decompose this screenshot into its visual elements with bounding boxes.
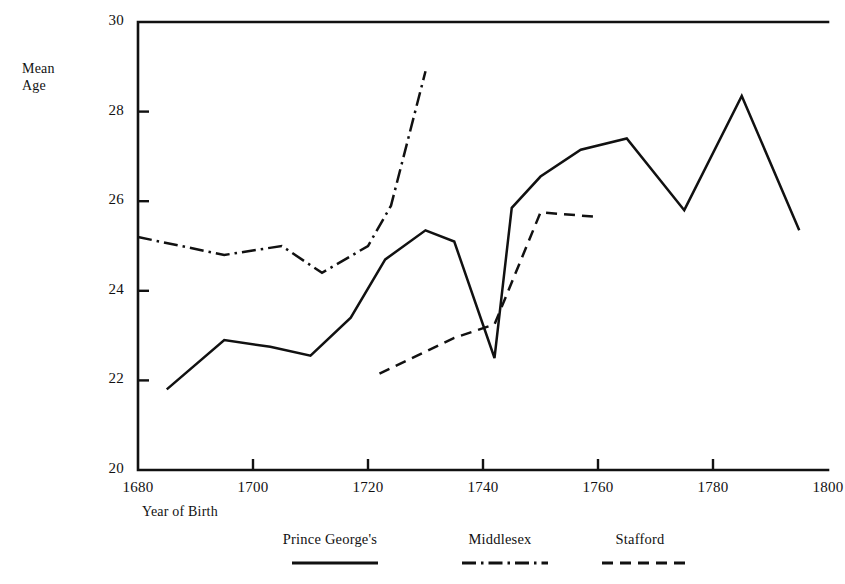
legend-swatch-svg bbox=[290, 560, 380, 566]
y-axis-title: Mean Age bbox=[22, 60, 55, 94]
axes-border bbox=[138, 22, 828, 470]
y-tick-label: 22 bbox=[90, 370, 124, 387]
chart-figure: Mean Age Year of Birth 202224262830 1680… bbox=[0, 0, 845, 584]
x-tick-label: 1680 bbox=[108, 479, 168, 496]
x-tick-label: 1700 bbox=[223, 479, 283, 496]
series-line bbox=[167, 96, 800, 389]
y-tick-label: 28 bbox=[90, 102, 124, 119]
axes-frame bbox=[138, 22, 828, 470]
x-tick-label: 1780 bbox=[683, 479, 743, 496]
legend-label: Prince George's bbox=[250, 531, 410, 548]
legend-swatch bbox=[290, 560, 370, 564]
x-tick-label: 1740 bbox=[453, 479, 513, 496]
x-tick-label: 1760 bbox=[568, 479, 628, 496]
axes-ticks bbox=[138, 112, 713, 470]
plot-area bbox=[0, 0, 845, 584]
legend-swatch bbox=[600, 560, 680, 564]
x-tick-label: 1800 bbox=[798, 479, 845, 496]
y-tick-label: 20 bbox=[90, 460, 124, 477]
series-line bbox=[138, 71, 426, 273]
legend-swatch-svg bbox=[600, 560, 690, 566]
data-series-layer bbox=[138, 71, 799, 389]
legend-item: Prince George's bbox=[250, 531, 410, 564]
x-axis-title: Year of Birth bbox=[142, 503, 218, 520]
y-tick-label: 26 bbox=[90, 191, 124, 208]
legend-label: Middlesex bbox=[420, 531, 580, 548]
legend-label: Stafford bbox=[560, 531, 720, 548]
x-tick-label: 1720 bbox=[338, 479, 398, 496]
series-line bbox=[380, 212, 599, 373]
legend-item: Stafford bbox=[560, 531, 720, 564]
legend-swatch-svg bbox=[460, 560, 550, 566]
legend-item: Middlesex bbox=[420, 531, 580, 564]
legend-swatch bbox=[460, 560, 540, 564]
y-tick-label: 24 bbox=[90, 281, 124, 298]
y-tick-label: 30 bbox=[90, 12, 124, 29]
